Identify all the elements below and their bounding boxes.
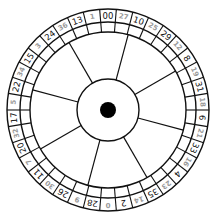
pocket-number-21: 21 xyxy=(195,127,205,139)
spoke-line xyxy=(40,126,81,150)
roulette-wheel-diagram: 0027102529128193118621331642335142028926… xyxy=(0,0,215,223)
pocket-number-27: 27 xyxy=(118,12,129,22)
pocket-number-32: 32 xyxy=(11,127,21,139)
pocket-number-8: 8 xyxy=(181,53,192,63)
pocket-number-9: 9 xyxy=(74,195,81,204)
pocket-number-6: 6 xyxy=(197,115,207,121)
pocket-number-2: 2 xyxy=(120,198,127,209)
pocket-number-18: 18 xyxy=(198,97,207,107)
pocket-divider xyxy=(83,12,89,34)
pocket-number-34: 34 xyxy=(16,66,27,78)
pocket-number-13: 13 xyxy=(71,14,84,27)
spoke-line xyxy=(88,140,100,185)
pocket-number-25: 25 xyxy=(147,21,159,33)
pocket-divider xyxy=(100,9,102,32)
pocket-divider xyxy=(114,188,116,211)
pocket-number-3: 3 xyxy=(34,41,43,50)
spoke-line xyxy=(116,35,128,80)
pocket-divider xyxy=(185,123,208,127)
pocket-number-4: 4 xyxy=(172,169,183,180)
pocket-number-36: 36 xyxy=(57,21,69,33)
spoke-line xyxy=(138,118,183,130)
spoke-line xyxy=(124,137,148,178)
pocket-divider xyxy=(127,186,133,208)
wheel-hub xyxy=(100,102,116,118)
pocket-number-1: 1 xyxy=(89,12,95,21)
spoke-line xyxy=(33,90,78,102)
pocket-number-22: 22 xyxy=(10,80,22,93)
pocket-divider xyxy=(100,188,102,211)
spoke-line xyxy=(69,42,93,83)
pocket-number-0: 0 xyxy=(105,201,110,209)
pocket-number-31: 31 xyxy=(193,80,205,93)
center-dot xyxy=(100,102,116,118)
pocket-number-17: 17 xyxy=(8,112,19,124)
pocket-number-14: 14 xyxy=(133,194,145,205)
pocket-number-19: 19 xyxy=(189,66,200,78)
pocket-number-5: 5 xyxy=(10,99,18,105)
pocket-number-10: 10 xyxy=(132,14,145,27)
pocket-number-00: 00 xyxy=(103,11,114,21)
pocket-number-7: 7 xyxy=(24,157,33,166)
pocket-divider xyxy=(114,9,116,32)
spoke-line xyxy=(135,71,176,95)
pocket-number-28: 28 xyxy=(86,197,98,209)
